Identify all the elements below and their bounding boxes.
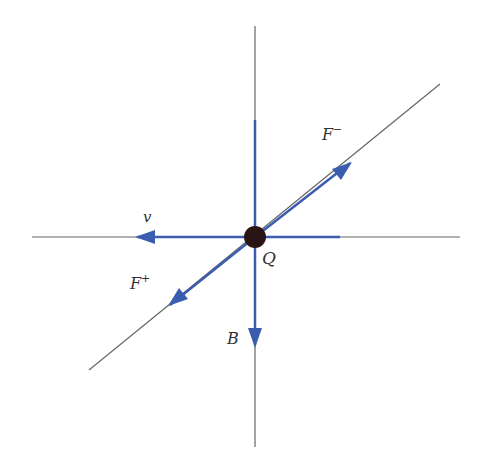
charge-label: Q (262, 248, 276, 268)
force-plus-vector (168, 237, 255, 306)
charge-q (244, 226, 266, 248)
force-minus-label: F− (321, 123, 342, 144)
force-diagram: Q v B F+ F− (0, 0, 493, 472)
velocity-label: v (143, 208, 152, 226)
velocity-vector (135, 230, 255, 244)
magnetic-field-vector (248, 237, 262, 348)
diagonal-axis-line (89, 84, 440, 370)
force-minus-vector (255, 162, 352, 237)
magnetic-field-label: B (226, 329, 239, 348)
force-plus-label: F+ (129, 272, 150, 293)
